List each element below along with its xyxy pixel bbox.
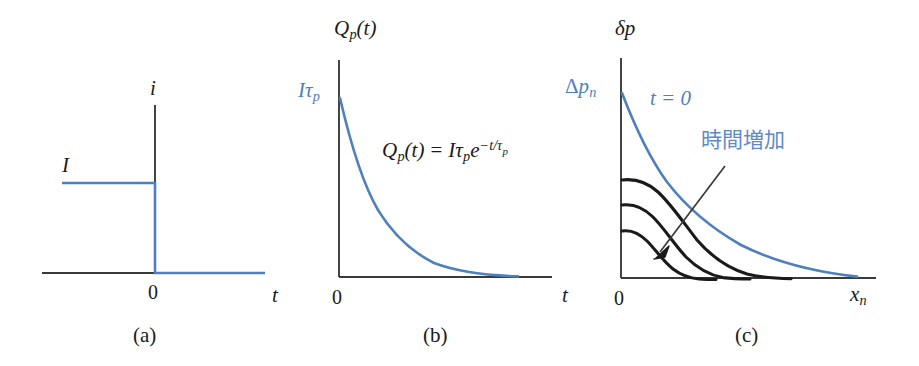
panel-b-plot xyxy=(290,0,600,366)
profile-curve-t0 xyxy=(622,93,857,277)
intercept-label-c-base: p xyxy=(579,74,590,98)
equation-rhs-exponent: −t/τ xyxy=(480,137,503,153)
panel-caption-c: (c) xyxy=(735,325,758,346)
intercept-label-b-sub: p xyxy=(313,88,320,104)
y-axis-label-c: δp xyxy=(615,18,635,39)
figure-root: i t 0 I (a) Qp(t) Iτp 0 t Qp(t)=Iτpe−t/τ… xyxy=(0,0,919,366)
y-axis-label-c-base: p xyxy=(625,16,636,40)
x-axis-label-b: t xyxy=(562,285,568,306)
equation-rhs-e: e xyxy=(470,138,479,162)
equation-rhs-tau: τ xyxy=(455,138,463,162)
panel-b: Qp(t) Iτp 0 t Qp(t)=Iτpe−t/τp (b) xyxy=(290,0,600,366)
panel-caption-b: (b) xyxy=(423,325,448,346)
panel-c: δp Δpn t = 0 時間増加 0 xn (c) xyxy=(595,0,919,366)
equation-equals: = xyxy=(424,138,448,162)
equation-lhs-sub: p xyxy=(397,148,404,164)
y-axis-label-b-sub: p xyxy=(349,26,356,42)
panel-caption-a: (a) xyxy=(133,325,156,346)
intercept-label-b: Iτp xyxy=(298,80,320,103)
panel-c-plot xyxy=(595,0,919,366)
x-axis-label-c: xn xyxy=(850,284,867,307)
origin-label-a: 0 xyxy=(148,282,158,302)
intercept-label-c: Δpn xyxy=(565,76,596,99)
exponential-decay-curve xyxy=(340,98,518,276)
intercept-label-c-delta: Δ xyxy=(565,74,579,98)
equation-lhs-base: Q xyxy=(382,138,397,162)
x-axis-label-a: t xyxy=(272,285,278,306)
increasing-time-annotation: 時間増加 xyxy=(701,130,785,151)
t-zero-label: t = 0 xyxy=(650,88,691,109)
time-arrow-shaft xyxy=(660,166,725,252)
intercept-label-b-tau: τ xyxy=(305,78,313,102)
panel-a: i t 0 I (a) xyxy=(0,0,300,366)
equation-lhs-arg: (t) xyxy=(405,138,425,162)
y-axis-label-b: Qp(t) xyxy=(334,18,376,41)
current-level-label: I xyxy=(62,155,69,176)
origin-label-c: 0 xyxy=(614,288,624,308)
origin-label-b: 0 xyxy=(332,287,342,307)
intercept-label-c-sub: n xyxy=(589,84,596,100)
equation-rhs-exponent-sub: p xyxy=(502,145,508,157)
y-axis-label-a: i xyxy=(150,78,156,99)
y-axis-label-b-base: Q xyxy=(334,16,349,40)
y-axis-label-c-delta: δ xyxy=(615,16,625,40)
y-axis-label-b-arg: (t) xyxy=(357,16,377,40)
step-current-curve xyxy=(62,183,265,273)
x-axis-label-c-base: x xyxy=(850,282,859,306)
profile-curve-t1 xyxy=(622,180,791,279)
x-axis-label-c-sub: n xyxy=(859,292,866,308)
intercept-label-b-coef: I xyxy=(298,78,305,102)
panel-a-plot xyxy=(0,0,300,366)
equation-b: Qp(t)=Iτpe−t/τp xyxy=(382,138,508,163)
